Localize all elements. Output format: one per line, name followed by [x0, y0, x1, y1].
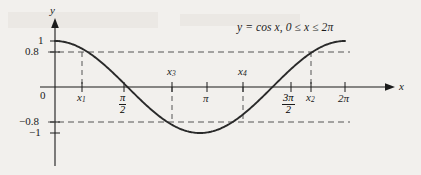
x-tick-label-pi-over-2: π 2: [119, 93, 126, 115]
origin-label: 0: [40, 90, 46, 101]
x-axis-arrowhead: [385, 83, 395, 91]
point-label-x3-subscript: 3: [172, 69, 176, 78]
y-tick-label-0-8: 0.8: [25, 46, 39, 57]
y-tick-label-negative-1: −1: [29, 127, 41, 138]
point-label-x2-subscript: 2: [311, 95, 315, 104]
point-label-x4-subscript: 4: [243, 69, 247, 78]
point-label-x3: x3: [167, 66, 176, 78]
point-label-x2: x2: [306, 92, 315, 104]
three-pi-over-2-numerator: 3π: [282, 93, 295, 105]
pi-over-2-denominator: 2: [119, 105, 126, 116]
pi-over-2-numerator: π: [119, 93, 126, 105]
point-label-x1-subscript: 1: [82, 95, 86, 104]
cosine-graph-figure: y x 1 0.8 −0.8 −1 0 x1 π 2 x3 π x4 3π 2 …: [0, 0, 421, 175]
y-axis-arrowhead: [51, 18, 59, 28]
three-pi-over-2-denominator: 2: [282, 105, 295, 116]
x-tick-label-two-pi: 2π: [338, 93, 349, 104]
y-axis-label: y: [50, 5, 55, 16]
x-axis-label: x: [399, 81, 404, 92]
x-tick-label-pi: π: [203, 93, 209, 104]
equation-annotation: y = cos x, 0 ≤ x ≤ 2π: [237, 22, 333, 34]
point-label-x4: x4: [238, 66, 247, 78]
plot-canvas: [0, 0, 421, 175]
x-tick-label-three-pi-over-2: 3π 2: [282, 93, 295, 115]
point-label-x1: x1: [77, 92, 86, 104]
